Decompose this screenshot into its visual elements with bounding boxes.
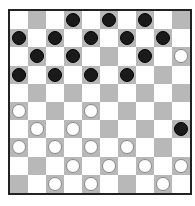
board-square[interactable] [10,175,28,193]
black-checker-piece[interactable] [12,31,26,45]
board-square[interactable] [10,84,28,102]
board-square[interactable] [10,157,28,175]
board-square[interactable] [100,120,118,138]
board-square[interactable] [82,29,100,47]
board-square[interactable] [118,138,136,156]
board-square[interactable] [46,11,64,29]
board-square[interactable] [154,47,172,65]
board-square[interactable] [100,175,118,193]
board-square[interactable] [46,138,64,156]
board-square[interactable] [28,47,46,65]
black-checker-piece[interactable] [156,31,170,45]
board-square[interactable] [10,29,28,47]
board-square[interactable] [136,120,154,138]
board-square[interactable] [136,11,154,29]
black-checker-piece[interactable] [66,49,80,63]
board-square[interactable] [172,175,190,193]
board-square[interactable] [82,47,100,65]
board-square[interactable] [82,11,100,29]
board-square[interactable] [154,175,172,193]
board-square[interactable] [154,157,172,175]
board-square[interactable] [136,175,154,193]
board-square[interactable] [118,11,136,29]
board-square[interactable] [82,157,100,175]
board-square[interactable] [136,29,154,47]
black-checker-piece[interactable] [12,68,26,82]
white-checker-piece[interactable] [84,177,98,191]
board-square[interactable] [46,175,64,193]
board-square[interactable] [28,157,46,175]
board-square[interactable] [100,102,118,120]
board-square[interactable] [82,120,100,138]
white-checker-piece[interactable] [102,159,116,173]
white-checker-piece[interactable] [48,140,62,154]
white-checker-piece[interactable] [84,104,98,118]
board-square[interactable] [100,47,118,65]
board-square[interactable] [46,157,64,175]
board-square[interactable] [154,120,172,138]
board-square[interactable] [154,66,172,84]
board-square[interactable] [46,84,64,102]
board-square[interactable] [118,157,136,175]
board-square[interactable] [172,29,190,47]
board-square[interactable] [28,66,46,84]
board-square[interactable] [64,47,82,65]
board-square[interactable] [64,175,82,193]
board-square[interactable] [136,102,154,120]
board-square[interactable] [118,175,136,193]
black-checker-piece[interactable] [84,68,98,82]
board-square[interactable] [118,120,136,138]
board-square[interactable] [64,66,82,84]
board-square[interactable] [64,29,82,47]
board-square[interactable] [64,138,82,156]
black-checker-piece[interactable] [66,13,80,27]
board-square[interactable] [118,84,136,102]
white-checker-piece[interactable] [12,104,26,118]
board-square[interactable] [28,138,46,156]
black-checker-piece[interactable] [102,13,116,27]
board-square[interactable] [100,138,118,156]
board-square[interactable] [118,66,136,84]
board-square[interactable] [46,47,64,65]
black-checker-piece[interactable] [120,68,134,82]
board-square[interactable] [118,29,136,47]
board-square[interactable] [118,47,136,65]
board-square[interactable] [100,157,118,175]
white-checker-piece[interactable] [120,140,134,154]
board-square[interactable] [10,11,28,29]
board-square[interactable] [46,102,64,120]
white-checker-piece[interactable] [66,122,80,136]
board-square[interactable] [82,84,100,102]
board-square[interactable] [172,138,190,156]
white-checker-piece[interactable] [174,49,188,63]
white-checker-piece[interactable] [174,159,188,173]
board-square[interactable] [64,120,82,138]
board-square[interactable] [10,120,28,138]
black-checker-piece[interactable] [174,122,188,136]
board-square[interactable] [154,138,172,156]
board-square[interactable] [136,157,154,175]
board-square[interactable] [154,84,172,102]
board-square[interactable] [82,138,100,156]
board-square[interactable] [172,84,190,102]
white-checker-piece[interactable] [30,122,44,136]
board-square[interactable] [10,102,28,120]
black-checker-piece[interactable] [48,31,62,45]
board-square[interactable] [46,66,64,84]
board-square[interactable] [172,157,190,175]
board-square[interactable] [28,175,46,193]
board-square[interactable] [64,84,82,102]
board-square[interactable] [118,102,136,120]
board-square[interactable] [172,11,190,29]
white-checker-piece[interactable] [66,159,80,173]
board-square[interactable] [10,66,28,84]
board-square[interactable] [28,102,46,120]
black-checker-piece[interactable] [84,31,98,45]
board-square[interactable] [100,66,118,84]
board-square[interactable] [10,138,28,156]
board-square[interactable] [64,157,82,175]
board-square[interactable] [100,84,118,102]
board-square[interactable] [172,120,190,138]
board-square[interactable] [100,29,118,47]
board-square[interactable] [46,29,64,47]
